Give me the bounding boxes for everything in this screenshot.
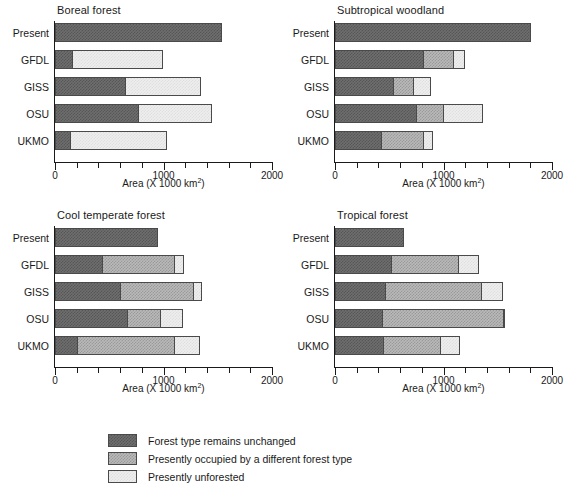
x-axis-minor-tick bbox=[400, 368, 401, 373]
legend-item-different: Presently occupied by a different forest… bbox=[108, 450, 508, 467]
bar-segment bbox=[55, 23, 222, 42]
x-axis-minor-tick bbox=[422, 163, 423, 168]
category-label: GFDL bbox=[21, 259, 49, 271]
x-axis-major-tick bbox=[272, 163, 273, 170]
stacked-bar bbox=[335, 309, 505, 328]
x-axis-major-tick bbox=[335, 368, 336, 375]
bar-segment bbox=[503, 309, 506, 328]
x-axis-caption-prefix: Area (X 1000 km bbox=[402, 383, 477, 394]
panel-tropical-forest: Tropical forest010002000PresentGFDLGISSO… bbox=[280, 209, 567, 414]
bar-segment bbox=[125, 77, 201, 96]
x-axis-minor-tick bbox=[530, 368, 531, 373]
bar-segment bbox=[381, 131, 423, 150]
x-axis-minor-tick bbox=[378, 368, 379, 373]
bar-segment bbox=[335, 255, 391, 274]
stacked-bar bbox=[55, 104, 212, 123]
x-axis-minor-tick bbox=[229, 368, 230, 373]
x-axis-minor-tick bbox=[357, 163, 358, 168]
bar-segment bbox=[453, 50, 465, 69]
bar-segment bbox=[423, 131, 433, 150]
bar-segment bbox=[55, 228, 158, 247]
stacked-bar bbox=[335, 228, 404, 247]
panel-title: Subtropical woodland bbox=[337, 4, 444, 16]
stacked-bar bbox=[335, 131, 433, 150]
category-label: GFDL bbox=[21, 54, 49, 66]
stacked-bar bbox=[55, 131, 167, 150]
x-axis-major-tick bbox=[55, 368, 56, 375]
category-label: OSU bbox=[26, 313, 49, 325]
stacked-bar bbox=[335, 77, 431, 96]
x-axis-caption-prefix: Area (X 1000 km bbox=[402, 178, 477, 189]
x-axis-minor-tick bbox=[207, 368, 208, 373]
legend-label: Presently unforested bbox=[148, 471, 244, 483]
bar-segment bbox=[72, 50, 163, 69]
x-axis-minor-tick bbox=[250, 368, 251, 373]
bar-segment bbox=[174, 255, 184, 274]
legend-swatch bbox=[108, 434, 137, 447]
category-label: UKMO bbox=[298, 340, 330, 352]
legend-label: Presently occupied by a different forest… bbox=[148, 453, 352, 465]
bar-segment bbox=[160, 309, 183, 328]
x-axis-major-tick bbox=[552, 368, 553, 375]
bar-segment bbox=[413, 77, 431, 96]
legend-item-unchanged: Forest type remains unchanged bbox=[108, 432, 508, 449]
bar-segment bbox=[55, 309, 127, 328]
plot-area: 010002000PresentGFDLGISSOSUUKMO bbox=[335, 226, 552, 366]
stacked-bar bbox=[55, 50, 163, 69]
bar-segment bbox=[335, 50, 423, 69]
category-label: GISS bbox=[24, 286, 49, 298]
bar-segment bbox=[138, 104, 212, 123]
bar-segment bbox=[416, 104, 444, 123]
x-axis-minor-tick bbox=[77, 163, 78, 168]
category-label: Present bbox=[293, 27, 329, 39]
bar-segment bbox=[102, 255, 175, 274]
x-axis-caption: Area (X 1000 km2) bbox=[55, 177, 272, 189]
x-axis-minor-tick bbox=[250, 163, 251, 168]
x-axis-minor-tick bbox=[98, 163, 99, 168]
panel-boreal-forest: Boreal forest010002000PresentGFDLGISSOSU… bbox=[0, 4, 287, 209]
bar-segment bbox=[55, 104, 138, 123]
panel-cool-temperate-forest: Cool temperate forest010002000PresentGFD… bbox=[0, 209, 287, 414]
x-axis-minor-tick bbox=[142, 368, 143, 373]
bar-segment bbox=[391, 255, 457, 274]
bar-segment bbox=[55, 336, 77, 355]
bar-segment bbox=[55, 255, 102, 274]
bar-segment bbox=[77, 336, 174, 355]
plot-area: 010002000PresentGFDLGISSOSUUKMO bbox=[55, 226, 272, 366]
bar-segment bbox=[458, 255, 480, 274]
x-axis-minor-tick bbox=[465, 163, 466, 168]
bar-segment bbox=[385, 282, 481, 301]
x-axis-minor-tick bbox=[422, 368, 423, 373]
panel-title: Boreal forest bbox=[57, 4, 121, 16]
bar-segment bbox=[335, 104, 416, 123]
stacked-bar bbox=[335, 50, 465, 69]
x-axis-major-tick bbox=[55, 163, 56, 170]
bar-segment bbox=[443, 104, 482, 123]
category-label: OSU bbox=[306, 108, 329, 120]
stacked-bar bbox=[335, 104, 483, 123]
bar-segment bbox=[55, 131, 70, 150]
stacked-bar bbox=[55, 282, 202, 301]
panel-grid: Boreal forest010002000PresentGFDLGISSOSU… bbox=[0, 0, 575, 420]
x-axis-minor-tick bbox=[142, 163, 143, 168]
category-label: GISS bbox=[24, 81, 49, 93]
category-label: Present bbox=[293, 232, 329, 244]
x-axis-caption: Area (X 1000 km2) bbox=[335, 382, 552, 394]
bar-segment bbox=[335, 131, 381, 150]
bar-segment bbox=[335, 309, 382, 328]
legend-label: Forest type remains unchanged bbox=[148, 435, 296, 447]
plot-area: 010002000PresentGFDLGISSOSUUKMO bbox=[335, 21, 552, 161]
x-axis-major-tick bbox=[444, 163, 445, 170]
bar-segment bbox=[193, 282, 202, 301]
x-axis-caption: Area (X 1000 km2) bbox=[335, 177, 552, 189]
stacked-bar bbox=[55, 23, 222, 42]
bar-segment bbox=[382, 309, 503, 328]
x-axis-minor-tick bbox=[185, 163, 186, 168]
x-axis-minor-tick bbox=[229, 163, 230, 168]
bar-segment bbox=[55, 282, 120, 301]
stacked-bar bbox=[55, 228, 158, 247]
x-axis-caption-suffix: ) bbox=[201, 383, 204, 394]
stacked-bar bbox=[55, 336, 200, 355]
x-axis-minor-tick bbox=[378, 163, 379, 168]
stacked-bar bbox=[335, 336, 460, 355]
